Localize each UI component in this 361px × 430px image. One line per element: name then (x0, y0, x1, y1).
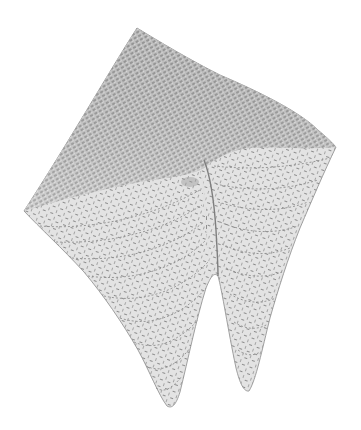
mesh-surface (0, 0, 361, 430)
saddle-dimple (181, 177, 199, 187)
figure-canvas (0, 0, 361, 430)
